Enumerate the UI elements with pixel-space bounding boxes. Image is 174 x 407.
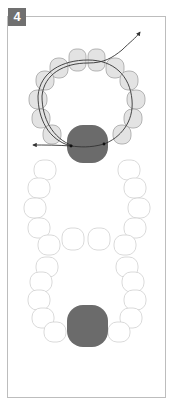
large-bead-upper bbox=[67, 125, 108, 163]
large-bead-lower bbox=[67, 305, 108, 347]
thread-knot-right bbox=[103, 143, 106, 146]
thread-knot-left bbox=[70, 145, 73, 148]
beading-diagram bbox=[0, 0, 174, 407]
